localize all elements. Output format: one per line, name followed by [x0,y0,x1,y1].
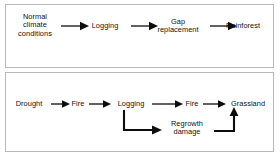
node-regrowth-damage: Regrowth damage [162,120,212,137]
panel-degraded-pathway [5,72,274,152]
node-normal-climate-conditions: Normal climate conditions [6,13,64,38]
node-drought: Drought [7,100,51,108]
node-fire-second: Fire [177,100,207,108]
node-grassland: Grassland [223,100,273,108]
node-gap-replacement: Gap replacement [149,18,207,35]
flow-diagram: Normal climate conditions Logging Gap re… [0,0,280,152]
node-fire-first: Fire [63,100,93,108]
node-rainforest: Rainforest [216,22,270,30]
node-logging-bottom: Logging [109,100,153,108]
node-logging-top: Logging [83,22,127,30]
